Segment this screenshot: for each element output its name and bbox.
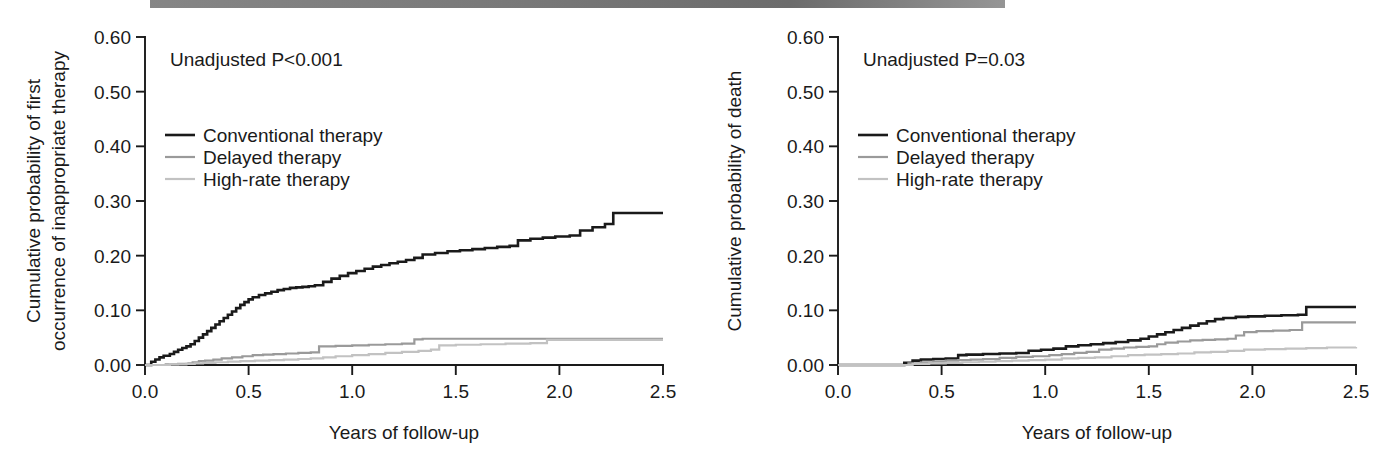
y-tick-label: 0.30: [787, 191, 824, 212]
chart-svg-left: 0.000.100.200.300.400.500.600.00.51.01.5…: [0, 0, 694, 461]
x-tick-label: 2.0: [1239, 381, 1265, 402]
x-axis-title: Years of follow-up: [1022, 422, 1172, 443]
curve-conventional: [145, 213, 663, 365]
y-tick-label: 0.00: [787, 355, 824, 376]
chart-panel-inappropriate-therapy: 0.000.100.200.300.400.500.600.00.51.01.5…: [0, 0, 694, 461]
legend-label-conventional: Conventional therapy: [203, 125, 383, 146]
chart-svg-right: 0.000.100.200.300.400.500.600.00.51.01.5…: [693, 0, 1387, 461]
y-tick-label: 0.10: [787, 300, 824, 321]
legend-label-high_rate: High-rate therapy: [896, 169, 1043, 190]
y-tick-label: 0.50: [787, 82, 824, 103]
y-tick-label: 0.10: [94, 300, 131, 321]
x-tick-label: 2.0: [546, 381, 572, 402]
y-tick-label: 0.60: [787, 27, 824, 48]
legend-label-high_rate: High-rate therapy: [203, 169, 350, 190]
y-tick-label: 0.30: [94, 191, 131, 212]
x-tick-label: 0.5: [928, 381, 954, 402]
x-tick-label: 0.0: [825, 381, 851, 402]
y-axis-title-line: occurrence of inappropriate therapy: [48, 51, 69, 351]
y-tick-label: 0.20: [787, 246, 824, 267]
y-tick-label: 0.50: [94, 82, 131, 103]
x-tick-label: 1.5: [1136, 381, 1162, 402]
pvalue-annotation: Unadjusted P<0.001: [170, 49, 343, 70]
y-tick-label: 0.40: [787, 136, 824, 157]
chart-panel-death: 0.000.100.200.300.400.500.600.00.51.01.5…: [693, 0, 1387, 461]
x-tick-label: 1.5: [443, 381, 469, 402]
x-axis-title: Years of follow-up: [329, 422, 479, 443]
y-tick-label: 0.00: [94, 355, 131, 376]
x-tick-label: 2.5: [1343, 381, 1369, 402]
axis-lines: [145, 37, 663, 365]
y-axis-title-line: Cumulative probability of first: [23, 78, 44, 323]
x-tick-label: 2.5: [650, 381, 676, 402]
x-tick-label: 1.0: [339, 381, 365, 402]
x-tick-label: 1.0: [1032, 381, 1058, 402]
figure-root: 0.000.100.200.300.400.500.600.00.51.01.5…: [0, 0, 1387, 461]
x-tick-label: 0.0: [132, 381, 158, 402]
y-tick-label: 0.40: [94, 136, 131, 157]
y-axis-title-line: Cumulative probability of death: [724, 71, 745, 332]
y-tick-label: 0.20: [94, 246, 131, 267]
y-tick-label: 0.60: [94, 27, 131, 48]
legend-label-conventional: Conventional therapy: [896, 125, 1076, 146]
pvalue-annotation: Unadjusted P=0.03: [863, 49, 1025, 70]
x-tick-label: 0.5: [235, 381, 261, 402]
legend-label-delayed: Delayed therapy: [896, 147, 1035, 168]
legend-label-delayed: Delayed therapy: [203, 147, 342, 168]
